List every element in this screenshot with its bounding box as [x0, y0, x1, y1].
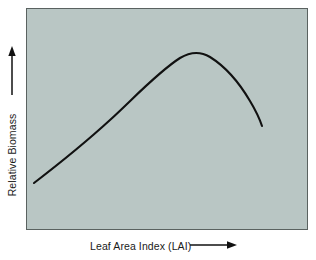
arrow-up-icon [8, 46, 15, 95]
y-axis-label-text: Relative Biomass [6, 114, 18, 197]
chart-figure: Relative Biomass Leaf Area Index (LAI) [0, 0, 316, 260]
plot-panel [26, 8, 308, 230]
x-axis-label: Leaf Area Index (LAI) [90, 238, 240, 254]
y-axis-label: Relative Biomass [0, 100, 24, 210]
x-axis-label-text: Leaf Area Index (LAI) [90, 240, 191, 252]
